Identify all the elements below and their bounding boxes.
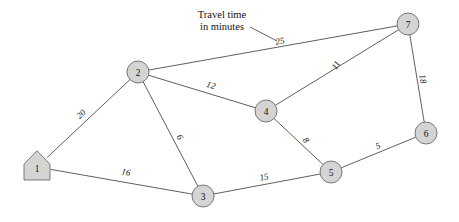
edge-weight-1-2: 20 — [74, 107, 88, 121]
network-graph: 1234567 20166122511815518 Travel time in… — [0, 0, 459, 222]
edge-2-7 — [149, 26, 397, 70]
node-label-6: 6 — [424, 129, 429, 139]
edge-weight-4-5: 8 — [301, 135, 312, 145]
node-label-1: 1 — [35, 164, 40, 174]
node-4[interactable]: 4 — [255, 100, 277, 122]
annotation-leader-line — [250, 27, 277, 41]
node-label-4: 4 — [264, 107, 269, 117]
edge-1-2 — [47, 80, 130, 158]
node-3[interactable]: 3 — [192, 185, 214, 207]
edge-weights-layer: 20166122511815518 — [74, 35, 428, 183]
edge-2-3 — [143, 82, 198, 187]
node-5[interactable]: 5 — [320, 161, 342, 183]
annotation-leader-layer — [250, 27, 277, 41]
node-7[interactable]: 7 — [397, 13, 419, 35]
annotation-layer: Travel time in minutes — [198, 9, 247, 32]
edge-weight-4-7: 11 — [330, 59, 343, 71]
node-label-7: 7 — [406, 20, 411, 30]
edge-4-5 — [274, 119, 323, 165]
edge-weight-5-6: 5 — [374, 140, 382, 151]
edges-layer — [47, 26, 424, 194]
node-2[interactable]: 2 — [127, 61, 149, 83]
edge-weight-1-3: 16 — [121, 166, 132, 177]
node-1[interactable]: 1 — [24, 151, 50, 180]
node-label-5: 5 — [329, 168, 334, 178]
edge-weight-2-4: 12 — [205, 79, 217, 91]
edge-weight-6-7: 18 — [417, 74, 428, 85]
node-label-2: 2 — [136, 68, 141, 78]
edge-weight-3-5: 15 — [259, 171, 270, 183]
node-label-3: 3 — [201, 192, 206, 202]
edge-2-4 — [149, 75, 256, 108]
diagram-canvas: 1234567 20166122511815518 Travel time in… — [0, 0, 459, 222]
nodes-layer: 1234567 — [24, 13, 437, 207]
annotation-line-2: in minutes — [200, 21, 244, 32]
annotation-line-1: Travel time — [198, 9, 247, 20]
edge-weight-2-3: 6 — [175, 133, 186, 142]
node-6[interactable]: 6 — [415, 122, 437, 144]
edge-weight-2-7: 25 — [275, 35, 286, 46]
